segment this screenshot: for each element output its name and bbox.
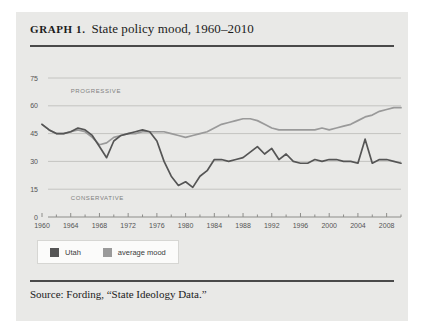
x-tick-label: 1980 [178,222,194,229]
x-tick-label: 2008 [379,222,395,229]
series-line-average-mood [42,108,401,145]
x-tick-label: 2004 [350,222,366,229]
x-tick-label: 1964 [63,222,79,229]
legend-swatch-average-mood [103,248,112,257]
x-tick-label: 1996 [293,222,309,229]
figure-title-block: GRAPH 1.State policy mood, 1960–2010 [30,21,394,37]
chart-plot-area: 01530456075 1960196419681972197619801984… [16,52,408,237]
y-tick-label: 60 [30,102,38,109]
x-tick-label: 1960 [34,222,50,229]
legend-item-average-mood: average mood [103,248,166,257]
figure-title-text: State policy mood, 1960–2010 [86,21,254,36]
zone-label-progressive: PROGRESSIVE [71,88,121,94]
y-tick-label: 15 [30,186,38,193]
y-tick-label: 75 [30,75,38,82]
x-axis-tick-labels: 1960196419681972197619801984198819921996… [34,222,394,229]
source-note: Source: Fording, “State Ideology Data.” [30,288,207,300]
y-tick-label: 45 [30,130,38,137]
y-tick-label: 30 [30,158,38,165]
y-tick-label: 0 [34,214,38,221]
legend-label-average-mood: average mood [118,248,166,257]
legend-label-utah: Utah [65,248,81,257]
line-chart-svg: 01530456075 1960196419681972197619801984… [16,52,408,237]
data-series-group [42,108,401,188]
x-tick-label: 1968 [92,222,108,229]
title-divider [30,45,394,47]
figure-card: GRAPH 1.State policy mood, 1960–2010 015… [16,12,408,321]
x-axis-group [42,213,401,217]
source-divider [30,280,394,282]
x-tick-label: 1984 [207,222,223,229]
page-title: GRAPH 1.State policy mood, 1960–2010 [30,21,394,37]
y-axis-tick-labels: 01530456075 [30,75,38,221]
x-tick-label: 1976 [149,222,165,229]
x-tick-label: 1988 [235,222,251,229]
graph-number-label: GRAPH 1. [30,23,86,35]
x-tick-label: 2000 [321,222,337,229]
chart-legend: Utah average mood [37,240,179,264]
zone-label-conservative: CONSERVATIVE [71,195,124,201]
x-tick-label: 1992 [264,222,280,229]
legend-swatch-utah [50,248,59,257]
x-tick-label: 1972 [120,222,136,229]
legend-item-utah: Utah [50,248,81,257]
